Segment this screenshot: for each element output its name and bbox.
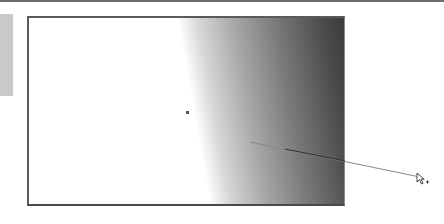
anchor-point-marker bbox=[186, 111, 189, 114]
window-top-border bbox=[0, 0, 444, 2]
arrow-plus-cursor-icon bbox=[416, 172, 430, 186]
image-canvas[interactable] bbox=[27, 16, 345, 206]
side-panel[interactable] bbox=[0, 14, 13, 96]
